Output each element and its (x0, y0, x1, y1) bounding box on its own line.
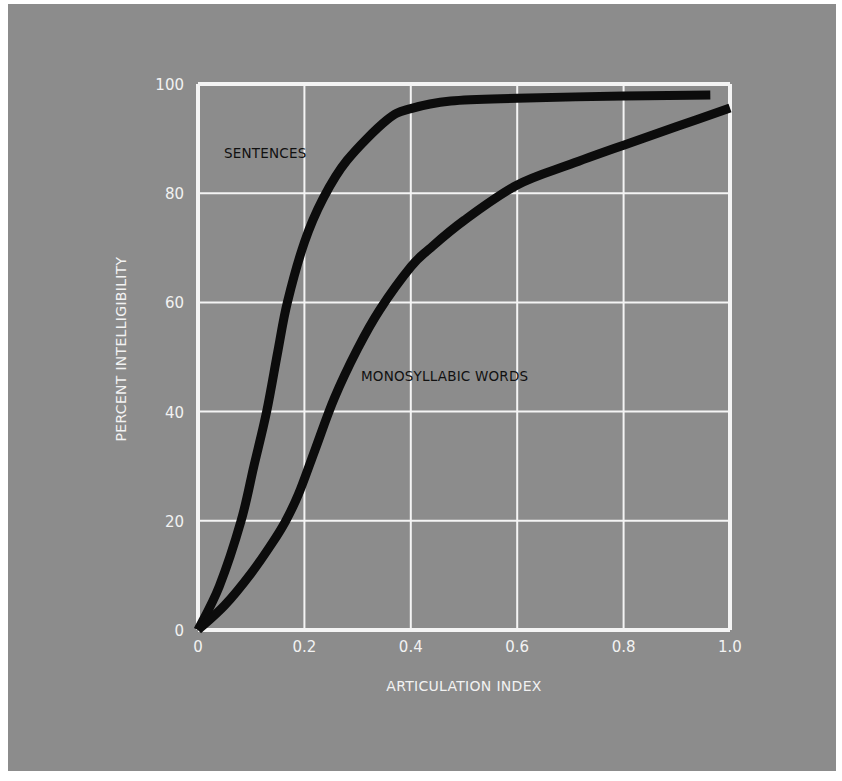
x-axis-ticks: 00.20.40.60.81.0 (193, 638, 742, 656)
x-tick-label: 0.8 (612, 638, 636, 656)
x-axis-label: ARTICULATION INDEX (386, 678, 542, 694)
y-tick-label: 80 (165, 185, 184, 203)
x-tick-label: 0.6 (505, 638, 529, 656)
curve-sentences (198, 95, 710, 630)
x-tick-label: 0.4 (399, 638, 423, 656)
data-curves (198, 95, 730, 630)
x-tick-label: 1.0 (718, 638, 742, 656)
y-tick-label: 20 (165, 513, 184, 531)
y-tick-label: 40 (165, 404, 184, 422)
y-axis-label: PERCENT INTELLIGIBILITY (113, 256, 129, 441)
intelligibility-chart: 00.20.40.60.81.0 020406080100 ARTICULATI… (0, 0, 842, 781)
series-label-monosyllabic-words: MONOSYLLABIC WORDS (361, 368, 528, 384)
y-axis-ticks: 020406080100 (155, 76, 184, 640)
x-tick-label: 0.2 (292, 638, 316, 656)
x-tick-label: 0 (193, 638, 203, 656)
y-tick-label: 0 (174, 622, 184, 640)
y-tick-label: 100 (155, 76, 184, 94)
y-tick-label: 60 (165, 294, 184, 312)
series-label-sentences: SENTENCES (224, 145, 306, 161)
